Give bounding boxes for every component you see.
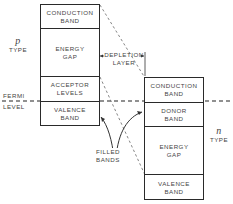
label: CONDUCTION xyxy=(47,9,94,17)
label: BAND xyxy=(60,17,79,25)
filled-bands-label: FILLED BANDS xyxy=(92,148,124,164)
p-type-text: TYPE xyxy=(4,46,32,54)
layer-text: LAYER xyxy=(104,59,144,67)
n-valence-band: VALENCE BAND xyxy=(145,175,203,200)
label: GAP xyxy=(167,151,182,159)
label: DONOR xyxy=(161,107,187,115)
label: LEVELS xyxy=(57,89,83,97)
label: ENERGY xyxy=(55,45,84,53)
label: ENERGY xyxy=(159,143,188,151)
level-text: LEVEL xyxy=(3,103,25,111)
bands-text: BANDS xyxy=(92,156,124,164)
fermi-level-label: FERMI LEVEL xyxy=(3,92,25,111)
n-symbol: n xyxy=(206,126,232,136)
label: BAND xyxy=(164,90,183,98)
n-conduction-band: CONDUCTION BAND xyxy=(145,78,203,103)
n-type-band-stack: CONDUCTION BAND DONOR BAND ENERGY GAP VA… xyxy=(144,77,204,200)
label: BAND xyxy=(164,115,183,123)
label: GAP xyxy=(63,53,78,61)
depletion-text: DEPLETION xyxy=(104,51,144,59)
label: ACCEPTOR xyxy=(51,81,89,89)
label: VALENCE xyxy=(54,106,86,114)
label: BAND xyxy=(164,188,183,196)
p-energy-gap: ENERGY GAP xyxy=(41,29,99,77)
p-type-label: p TYPE xyxy=(4,36,32,54)
label: VALENCE xyxy=(158,180,190,188)
label: CONDUCTION xyxy=(151,82,198,90)
fermi-text: FERMI xyxy=(3,92,25,100)
n-donor-band: DONOR BAND xyxy=(145,103,203,127)
p-symbol: p xyxy=(4,36,32,46)
p-acceptor-levels: ACCEPTOR LEVELS xyxy=(41,77,99,102)
p-valence-band: VALENCE BAND xyxy=(41,102,99,126)
filled-text: FILLED xyxy=(92,148,124,156)
n-type-label: n TYPE xyxy=(206,126,232,144)
n-energy-gap: ENERGY GAP xyxy=(145,127,203,175)
p-conduction-band: CONDUCTION BAND xyxy=(41,5,99,29)
p-type-band-stack: CONDUCTION BAND ENERGY GAP ACCEPTOR LEVE… xyxy=(40,4,100,126)
label: BAND xyxy=(60,114,79,122)
conduction-edge-bend-line xyxy=(100,5,145,78)
n-type-text: TYPE xyxy=(206,136,232,144)
depletion-layer-label: DEPLETION LAYER xyxy=(104,51,144,67)
